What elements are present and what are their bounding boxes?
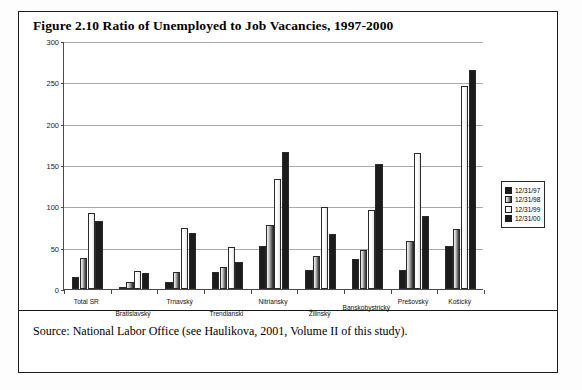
bar (445, 246, 452, 289)
legend-item: 12/31/00 (505, 214, 540, 223)
bar (189, 233, 196, 289)
bar (165, 282, 172, 289)
bar (126, 282, 133, 289)
figure-source: Source: National Labor Office (see Hauli… (33, 324, 408, 339)
bar (422, 216, 429, 289)
bar (305, 270, 312, 289)
x-axis-tick (484, 290, 485, 294)
bar-group (212, 42, 243, 289)
bar (228, 247, 235, 289)
bar (181, 228, 188, 289)
screenshot-page: Figure 2.10 Ratio of Unemployed to Job V… (0, 0, 582, 390)
category-label: Nitriansky (259, 298, 288, 305)
y-axis-tick (61, 249, 64, 250)
x-axis-tick (64, 290, 65, 294)
x-axis-tick (297, 290, 298, 294)
legend-item: 12/31/98 (505, 195, 540, 204)
legend-item: 12/31/97 (505, 186, 540, 195)
bar (220, 267, 227, 289)
bar (352, 259, 359, 289)
bar (406, 241, 413, 289)
y-axis-tick-label: 200 (46, 120, 59, 129)
source-divider (19, 310, 557, 311)
legend-label: 12/31/00 (515, 215, 540, 222)
x-axis-tick (251, 290, 252, 294)
bar (88, 213, 95, 289)
category-label: Bratislavský (115, 310, 150, 317)
y-axis-tick (61, 125, 64, 126)
bar-group (445, 42, 476, 289)
bar-group (72, 42, 103, 289)
legend-swatch-icon (505, 187, 512, 194)
category-label: Trnavský (166, 298, 193, 305)
bar (119, 287, 126, 289)
figure-box: Figure 2.10 Ratio of Unemployed to Job V… (18, 11, 558, 373)
category-label: Total SR (74, 298, 99, 305)
bar (368, 210, 375, 289)
x-axis-tick (344, 290, 345, 294)
y-axis-tick-label: 150 (46, 162, 59, 171)
bar-group (165, 42, 196, 289)
bar (461, 86, 468, 289)
bar (274, 179, 281, 289)
bar (266, 225, 273, 289)
bar (414, 153, 421, 289)
chart-area: 050100150200250300 Total SRBratislavskýT… (27, 36, 551, 308)
y-axis-tick-label: 0 (55, 286, 59, 295)
y-axis-tick (61, 42, 64, 43)
bar (360, 250, 367, 289)
bar (399, 270, 406, 289)
bar-group (305, 42, 336, 289)
y-axis-tick (61, 207, 64, 208)
y-axis-tick-label: 50 (51, 244, 59, 253)
bar (375, 164, 382, 289)
bar (72, 277, 79, 289)
bar (259, 246, 266, 289)
legend-label: 12/31/98 (515, 196, 540, 203)
legend-swatch-icon (505, 206, 512, 213)
y-axis-tick (61, 166, 64, 167)
x-axis-tick (111, 290, 112, 294)
bar-group (399, 42, 430, 289)
category-label: Prešovský (398, 298, 428, 305)
bar (142, 273, 149, 289)
category-label: Žilinský (309, 310, 331, 317)
bar (173, 272, 180, 289)
bar-group (259, 42, 290, 289)
y-axis-tick-label: 100 (46, 203, 59, 212)
bar (235, 262, 242, 289)
bar-group (119, 42, 150, 289)
category-label: Košický (448, 298, 471, 305)
bar (95, 221, 102, 289)
bar-group (352, 42, 383, 289)
legend-swatch-icon (505, 196, 512, 203)
bar (329, 234, 336, 289)
legend-swatch-icon (505, 215, 512, 222)
figure-title: Figure 2.10 Ratio of Unemployed to Job V… (33, 18, 393, 34)
bar (453, 229, 460, 289)
y-axis-tick (61, 83, 64, 84)
y-axis-tick-label: 250 (46, 79, 59, 88)
legend-label: 12/31/99 (515, 206, 540, 213)
bar (134, 271, 141, 289)
bar (80, 258, 87, 289)
bar (469, 70, 476, 289)
bar (313, 256, 320, 289)
plot-region: 050100150200250300 (63, 42, 483, 290)
legend-item: 12/31/99 (505, 205, 540, 214)
bar (212, 272, 219, 289)
legend-label: 12/31/97 (515, 187, 540, 194)
chart-legend: 12/31/9712/31/9812/31/9912/31/00 (501, 181, 545, 228)
bar (282, 152, 289, 289)
x-axis-tick (391, 290, 392, 294)
x-axis-tick (437, 290, 438, 294)
x-axis-tick (204, 290, 205, 294)
y-axis-tick-label: 300 (46, 38, 59, 47)
category-label: Trendianski (209, 310, 243, 317)
bar (321, 207, 328, 289)
x-axis-tick (157, 290, 158, 294)
